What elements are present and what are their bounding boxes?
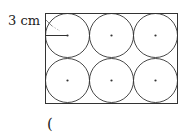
center-dot <box>110 34 112 36</box>
label-pointer-dashed <box>52 26 60 31</box>
center-dot <box>154 34 156 36</box>
center-dot <box>66 79 68 81</box>
radius-label: 3 cm <box>8 14 40 27</box>
center-dot <box>110 79 112 81</box>
center-dot <box>154 79 156 81</box>
answer-bracket: ( <box>47 117 53 132</box>
